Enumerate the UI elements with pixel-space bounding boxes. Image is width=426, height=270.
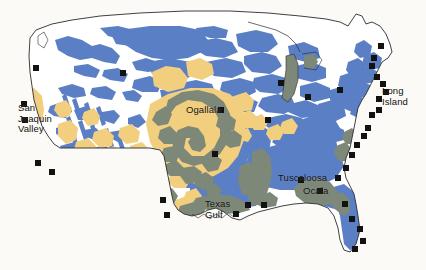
aquifer-map: San Joaquin Valley Ogallala Texas Gulf T… (0, 0, 426, 270)
map-graphic (0, 0, 426, 270)
